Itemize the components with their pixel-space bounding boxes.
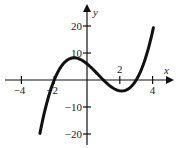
y-tick-label: −10: [65, 101, 83, 113]
y-tick-label: 20: [71, 20, 83, 32]
y-axis-label: y: [92, 6, 98, 18]
x-tick-label: 4: [150, 84, 156, 96]
y-tick-label: −20: [65, 128, 83, 140]
x-tick-label: −4: [14, 84, 26, 96]
cubic-function-graph: −4−224 2010−10−20 x y: [0, 0, 176, 148]
x-tick-label: 2: [117, 63, 123, 75]
x-axis-label: x: [163, 64, 169, 76]
